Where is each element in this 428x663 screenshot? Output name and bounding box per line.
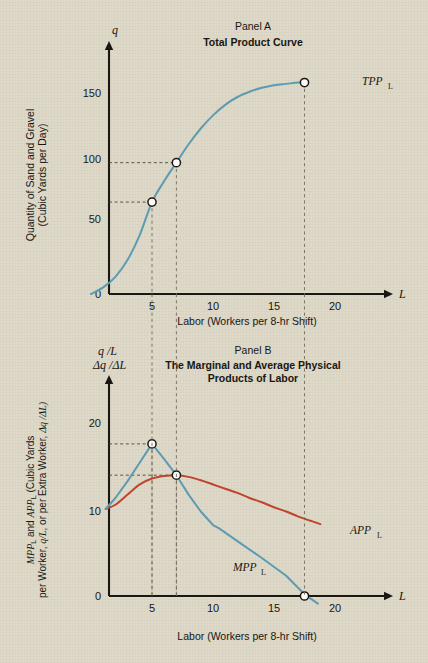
panel-b-y-tick-20: 20 — [89, 417, 101, 429]
panel-a-x-tick-labels: 5 10 15 20 — [149, 300, 341, 312]
app-curve — [106, 475, 321, 524]
panel-b-kicker: Panel B — [235, 344, 272, 356]
panel-a-x-tick-10: 10 — [207, 300, 219, 312]
panel-b-x-axis-title: Labor (Workers per 8-hr Shift) — [177, 630, 316, 642]
data-point-marker — [300, 78, 308, 86]
panel-a-y-axis-title: Quantity of Sand and Gravel (Cubic Yards… — [24, 109, 48, 242]
panel-b-y-axis-variable-line2: Δq /ΔL — [92, 358, 126, 372]
panel-b-y-tick-0: 0 — [95, 590, 101, 602]
app-curve-label-subscript: L — [377, 531, 382, 540]
panel-a-y-tick-100: 100 — [83, 153, 101, 165]
tpp-curve — [91, 82, 305, 294]
panel-b-title-line2: Products of Labor — [208, 372, 298, 384]
data-point-marker — [148, 198, 156, 206]
panel-a-y-tick-labels: 0 50 100 150 — [83, 87, 101, 300]
panel-a-y-axis-title-line2: (Cubic Yards per Day) — [36, 124, 48, 227]
panel-a-title: Total Product Curve — [203, 36, 303, 48]
panel-b-y-axis-title: MPPL and APPL (Cubic Yards per Worker, q… — [25, 401, 49, 598]
panel-a-x-axis-variable: L — [398, 287, 406, 301]
panel-a: Panel A Total Product Curve Quantity of … — [24, 20, 406, 327]
panel-a-y-tick-50: 50 — [89, 213, 101, 225]
cross-panel-guides — [152, 294, 305, 596]
panel-a-axes — [105, 41, 393, 298]
panel-b-x-tick-10: 10 — [207, 602, 219, 614]
panel-a-x-tick-20: 20 — [329, 300, 341, 312]
mpp-curve-label: MPP — [232, 561, 257, 573]
panel-a-x-tick-15: 15 — [268, 300, 280, 312]
panel-b-y-axis-title-line2: per Worker, q/L, or per Extra Worker, Δq… — [37, 401, 49, 598]
panel-a-x-axis-title: Labor (Workers per 8-hr Shift) — [177, 315, 316, 327]
panel-b: Panel B The Marginal and Average Physica… — [25, 344, 406, 642]
panel-b-x-arrowhead — [384, 592, 393, 600]
panel-a-y-arrowhead — [105, 41, 113, 50]
panel-a-y-tick-150: 150 — [83, 87, 101, 99]
mpp-curve — [106, 444, 318, 604]
tpp-curve-label-subscript: L — [388, 82, 393, 91]
panel-b-x-tick-20: 20 — [329, 602, 341, 614]
panel-b-y-arrowhead — [105, 375, 113, 384]
panel-b-y-axis-variable-line1: q /L — [98, 344, 117, 358]
panel-a-kicker: Panel A — [235, 20, 271, 32]
panel-b-title-line1: The Marginal and Average Physical — [165, 359, 341, 371]
app-curve-label: APP — [349, 524, 371, 536]
panel-b-markers — [148, 440, 309, 600]
two-panel-production-chart: Panel A Total Product Curve Quantity of … — [0, 0, 428, 663]
panel-b-y-tick-10: 10 — [89, 505, 101, 517]
panel-b-x-tick-15: 15 — [268, 602, 280, 614]
panel-b-x-tick-labels: 5 10 15 20 — [149, 602, 341, 614]
panel-a-y-axis-title-line1: Quantity of Sand and Gravel — [24, 109, 36, 242]
panel-b-y-tick-labels: 0 10 20 — [89, 417, 101, 602]
data-point-marker — [172, 159, 180, 167]
panel-b-y-axis-title-line1: MPPL and APPL (Cubic Yards — [25, 436, 37, 566]
tpp-curve-label: TPP — [362, 75, 382, 87]
panel-b-x-tick-5: 5 — [149, 602, 155, 614]
panel-a-x-arrowhead — [384, 290, 393, 298]
panel-b-x-axis-variable: L — [398, 589, 406, 603]
panel-b-guide-lines — [109, 444, 305, 596]
panel-a-markers — [148, 78, 309, 206]
economics-figure: Panel A Total Product Curve Quantity of … — [0, 0, 428, 663]
panel-a-y-axis-variable: q — [112, 23, 118, 37]
panel-a-guide-lines — [109, 83, 305, 294]
mpp-curve-label-subscript: L — [261, 568, 266, 577]
